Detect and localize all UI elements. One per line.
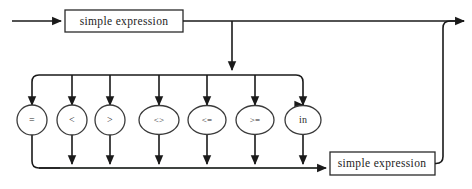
operator-group-ge[interactable]: >= bbox=[236, 106, 274, 135]
operator-group-le[interactable]: <= bbox=[188, 106, 226, 135]
operator-group-ne[interactable]: <> bbox=[139, 106, 179, 135]
railroad-diagram-svg: simple expression simple expression bbox=[0, 0, 472, 189]
operator-label-gt: > bbox=[107, 114, 113, 125]
operator-group-lt[interactable]: < bbox=[57, 105, 87, 135]
operator-group-in[interactable]: in bbox=[285, 106, 321, 135]
operator-label-lt: < bbox=[69, 114, 75, 125]
return-rail bbox=[435, 21, 464, 164]
railroad-diagram-canvas: simple expression simple expression bbox=[0, 0, 472, 189]
operator-label-eq: = bbox=[29, 114, 35, 125]
operator-label-in: in bbox=[299, 114, 307, 125]
left-simple-expression-label: simple expression bbox=[80, 15, 169, 28]
right-simple-expression-label: simple expression bbox=[338, 157, 427, 170]
exit-line-eq bbox=[32, 131, 60, 168]
operator-label-ge: >= bbox=[250, 115, 261, 125]
operator-label-ne: <> bbox=[154, 115, 165, 125]
operator-group-eq[interactable]: = bbox=[17, 105, 47, 135]
operator-label-le: <= bbox=[202, 115, 213, 125]
operator-group-gt[interactable]: > bbox=[95, 105, 125, 135]
